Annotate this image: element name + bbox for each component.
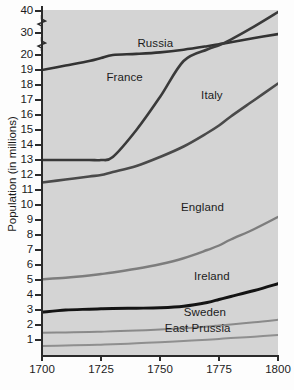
series-label-england: England [181,202,224,214]
y-tick-label: 7 [27,244,33,256]
y-tick-label: 9 [27,214,33,226]
y-tick [35,159,41,160]
y-tick [35,234,41,235]
series-line-ireland [42,284,278,313]
plot-svg [42,10,278,355]
axis-break-mark [36,37,47,51]
y-tick-label: 8 [27,229,33,241]
x-tick [41,355,42,361]
series-label-italy: Italy [201,90,223,102]
y-tick-label: 13 [21,154,33,166]
y-tick-label: 5 [27,274,33,286]
x-tick [277,355,278,361]
y-tick [35,69,41,70]
y-tick [35,84,41,85]
series-label-sweden: Sweden [184,307,226,319]
series-line-east-prussia [42,335,278,346]
y-tick [35,309,41,310]
x-tick-label: 1725 [88,364,114,376]
y-tick [35,54,41,55]
y-tick-label: 12 [21,169,33,181]
series-label-france: France [106,72,142,84]
y-tick [35,204,41,205]
y-tick [35,114,41,115]
y-tick [35,249,41,250]
x-tick [218,355,219,361]
series-label-ireland: Ireland [194,271,230,283]
y-tick-label: 30 [21,27,33,39]
y-tick [35,32,41,33]
y-tick-label: 14 [21,139,33,151]
y-tick [35,219,41,220]
y-tick-label: 15 [21,124,33,136]
y-tick [35,264,41,265]
y-axis-line [41,6,43,357]
x-tick-label: 1775 [206,364,232,376]
y-tick-label: 17 [21,94,33,106]
series-label-east-prussia: East Prussia [165,323,231,335]
x-tick [100,355,101,361]
axis-break-mark [36,15,47,29]
plot-area [42,10,278,355]
x-tick [159,355,160,361]
y-tick [35,10,41,11]
y-tick-label: 1 [27,334,33,346]
y-tick-label: 2 [27,319,33,331]
y-tick-label: 11 [21,184,33,196]
population-line-chart: 40302019181716151413121110987654321 1700… [0,0,294,390]
y-tick-label: 16 [21,109,33,121]
y-tick-label: 10 [21,199,33,211]
series-line-sweden [42,320,278,333]
y-tick-label: 6 [27,259,33,271]
y-tick [35,279,41,280]
y-tick-label: 19 [21,64,33,76]
y-tick [35,174,41,175]
y-tick [35,99,41,100]
series-line-england [42,217,278,279]
y-tick [35,339,41,340]
y-tick [35,189,41,190]
x-tick-label: 1800 [265,364,291,376]
y-tick [35,294,41,295]
x-tick-label: 1700 [29,364,55,376]
y-tick-label: 4 [27,289,33,301]
y-tick [35,129,41,130]
series-line-russia [42,12,278,160]
y-tick-label: 20 [21,49,33,61]
series-label-russia: Russia [137,38,173,50]
y-tick [35,324,41,325]
y-tick [35,144,41,145]
x-tick-label: 1750 [147,364,173,376]
y-tick-label: 18 [21,79,33,91]
y-axis-title: Population (in millions) [6,86,18,262]
y-tick-label: 40 [21,5,33,17]
y-tick-label: 3 [27,304,33,316]
